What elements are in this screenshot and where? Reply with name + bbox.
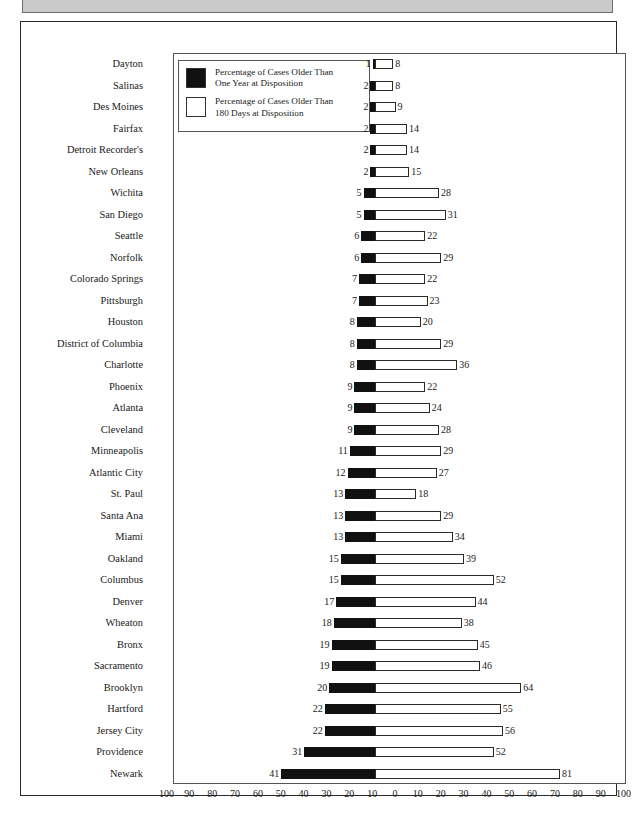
row-city-label: Dayton: [21, 53, 143, 75]
value-label-over-180-days: 56: [505, 720, 515, 742]
value-label-over-180-days: 81: [562, 763, 572, 785]
chart-row: Fairfax214: [21, 118, 618, 140]
chart-row: Phoenix922: [21, 376, 618, 398]
value-label-over-180-days: 29: [443, 440, 453, 462]
row-city-label: Miami: [21, 526, 143, 548]
row-city-label: Providence: [21, 741, 143, 763]
value-label-over-one-year: 2: [338, 75, 368, 97]
chart-row: Charlotte836: [21, 354, 618, 376]
value-label-over-180-days: 64: [523, 677, 533, 699]
chart-row: Brooklyn2064: [21, 677, 618, 699]
chart-row: District of Columbia829: [21, 333, 618, 355]
row-city-label: Oakland: [21, 548, 143, 570]
bar-over-one-year: [361, 253, 375, 263]
bar-over-180-days: [375, 726, 503, 736]
bar-over-one-year: [345, 511, 375, 521]
row-city-label: Denver: [21, 591, 143, 613]
value-label-over-180-days: 34: [455, 526, 465, 548]
row-city-label: Atlanta: [21, 397, 143, 419]
value-label-over-180-days: 52: [496, 569, 506, 591]
chart-row: St. Paul1318: [21, 483, 618, 505]
row-city-label: Columbus: [21, 569, 143, 591]
value-label-over-180-days: 27: [439, 462, 449, 484]
row-city-label: Sacramento: [21, 655, 143, 677]
row-city-label: Minneapolis: [21, 440, 143, 462]
value-label-over-one-year: 7: [327, 268, 357, 290]
value-label-over-180-days: 52: [496, 741, 506, 763]
bar-over-one-year: [341, 575, 375, 585]
value-label-over-one-year: 7: [327, 290, 357, 312]
value-label-over-one-year: 8: [325, 354, 355, 376]
value-label-over-one-year: 9: [322, 419, 352, 441]
value-label-over-one-year: 2: [338, 139, 368, 161]
chart-row: Denver1744: [21, 591, 618, 613]
row-city-label: Salinas: [21, 75, 143, 97]
chart-row: Pittsburgh723: [21, 290, 618, 312]
value-label-over-180-days: 15: [411, 161, 421, 183]
x-tick-label: 100: [611, 786, 636, 802]
value-label-over-one-year: 13: [313, 526, 343, 548]
row-city-label: Houston: [21, 311, 143, 333]
bar-over-one-year: [364, 188, 375, 198]
bar-over-one-year: [357, 317, 375, 327]
bar-over-one-year: [357, 360, 375, 370]
bar-over-180-days: [375, 360, 457, 370]
value-label-over-180-days: 24: [432, 397, 442, 419]
bar-over-one-year: [334, 618, 375, 628]
bar-over-one-year: [357, 339, 375, 349]
value-label-over-one-year: 20: [297, 677, 327, 699]
row-city-label: Cleveland: [21, 419, 143, 441]
value-label-over-one-year: 13: [313, 483, 343, 505]
value-label-over-180-days: 22: [427, 268, 437, 290]
bar-over-one-year: [361, 231, 375, 241]
value-label-over-one-year: 11: [318, 440, 348, 462]
bar-over-one-year: [325, 726, 375, 736]
bar-over-180-days: [375, 210, 446, 220]
value-label-over-180-days: 29: [443, 247, 453, 269]
value-label-over-one-year: 2: [338, 118, 368, 140]
chart-row: Oakland1539: [21, 548, 618, 570]
bar-over-180-days: [375, 124, 407, 134]
bar-over-one-year: [354, 425, 375, 435]
bar-over-180-days: [375, 317, 421, 327]
value-label-over-180-days: 29: [443, 505, 453, 527]
value-label-over-180-days: 38: [464, 612, 474, 634]
bar-over-180-days: [375, 683, 521, 693]
row-city-label: Wheaton: [21, 612, 143, 634]
bar-over-180-days: [375, 403, 430, 413]
value-label-over-one-year: 5: [332, 204, 362, 226]
chart-row: Bronx1945: [21, 634, 618, 656]
chart-row: Cleveland928: [21, 419, 618, 441]
bar-over-one-year: [341, 554, 375, 564]
row-city-label: Phoenix: [21, 376, 143, 398]
row-city-label: Norfolk: [21, 247, 143, 269]
chart-row: Salinas28: [21, 75, 618, 97]
bar-over-one-year: [332, 640, 375, 650]
bar-over-180-days: [375, 747, 494, 757]
value-label-over-180-days: 9: [398, 96, 403, 118]
bar-over-180-days: [375, 145, 407, 155]
bar-over-one-year: [359, 296, 375, 306]
value-label-over-180-days: 39: [466, 548, 476, 570]
bar-over-180-days: [375, 575, 494, 585]
row-city-label: Atlantic City: [21, 462, 143, 484]
bar-over-180-days: [375, 489, 416, 499]
chart-row: Miami1334: [21, 526, 618, 548]
bar-over-180-days: [375, 661, 480, 671]
row-city-label: New Orleans: [21, 161, 143, 183]
chart-row: Providence3152: [21, 741, 618, 763]
bar-over-one-year: [345, 532, 375, 542]
value-label-over-180-days: 36: [459, 354, 469, 376]
chart-row: Hartford2255: [21, 698, 618, 720]
bar-over-180-days: [375, 274, 425, 284]
value-label-over-one-year: 22: [293, 698, 323, 720]
row-city-label: Fairfax: [21, 118, 143, 140]
value-label-over-180-days: 8: [395, 53, 400, 75]
chart-row: New Orleans215: [21, 161, 618, 183]
chart-row: Santa Ana1329: [21, 505, 618, 527]
bar-over-one-year: [354, 382, 375, 392]
value-label-over-180-days: 29: [443, 333, 453, 355]
chart-row: Dayton18: [21, 53, 618, 75]
row-city-label: Seattle: [21, 225, 143, 247]
value-label-over-180-days: 31: [448, 204, 458, 226]
